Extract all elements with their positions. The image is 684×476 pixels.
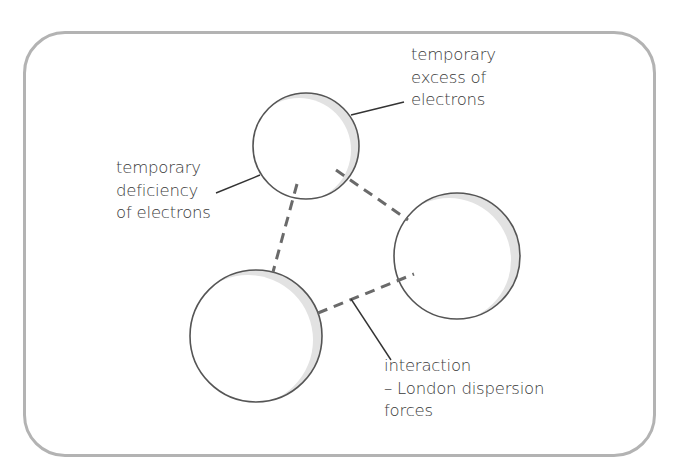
- particle-right: [387, 193, 520, 322]
- dispersion-forces-diagram: [0, 0, 684, 476]
- label-line: electrons: [411, 89, 496, 112]
- label-line: interaction: [384, 355, 544, 378]
- label-line: of electrons: [116, 202, 211, 225]
- label-line: excess of: [411, 67, 496, 90]
- label-deficiency-electrons: temporary deficiency of electrons: [116, 157, 211, 225]
- label-excess-electrons: temporary excess of electrons: [411, 44, 496, 112]
- label-line: deficiency: [116, 180, 211, 203]
- label-line: temporary: [116, 157, 211, 180]
- interaction-bottomleft-right: [318, 274, 414, 313]
- label-line: temporary: [411, 44, 496, 67]
- leader-deficiency: [216, 175, 260, 193]
- particle-bottom-left: [183, 270, 322, 405]
- leader-interaction: [351, 299, 391, 360]
- leader-excess: [351, 102, 404, 115]
- label-interaction-london: interaction – London dispersion forces: [384, 355, 544, 423]
- particle-top: [247, 93, 359, 202]
- label-line: – London dispersion: [384, 378, 544, 401]
- label-line: forces: [384, 400, 544, 423]
